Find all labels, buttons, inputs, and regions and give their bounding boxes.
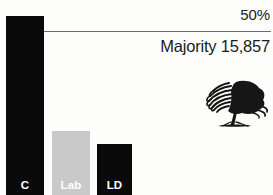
bar-conservative: C [6, 16, 44, 195]
bar-label-labour: Lab [52, 180, 90, 192]
bar-libdem: LD [97, 144, 132, 195]
conservative-tree-logo-icon [198, 76, 270, 130]
threshold-line-50-percent [44, 31, 271, 32]
bar-label-libdem: LD [97, 180, 132, 192]
bar-labour: Lab [52, 131, 90, 195]
bar-label-conservative: C [6, 180, 44, 192]
majority-label: Majority 15,857 [160, 38, 270, 55]
election-bar-chart: C Lab LD 50% Majority 15,857 [0, 0, 273, 195]
threshold-label-50-percent: 50% [240, 7, 270, 22]
